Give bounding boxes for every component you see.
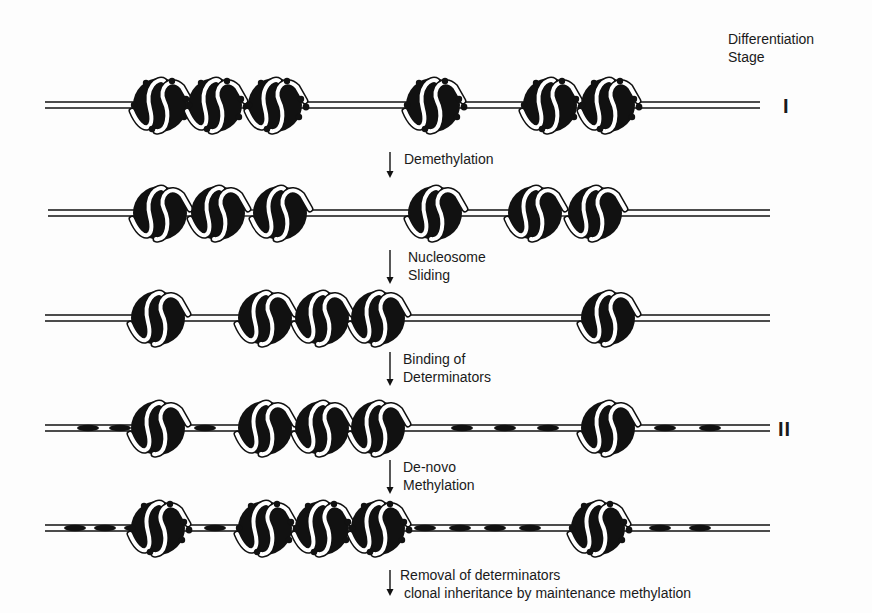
- nucleosome-icon: [404, 78, 468, 132]
- methyl-group-icon: [559, 78, 565, 84]
- methyl-group-icon: [131, 102, 137, 108]
- methyl-group-icon: [399, 537, 405, 543]
- nucleosome-icon: [246, 78, 310, 132]
- methyl-group-icon: [303, 104, 310, 111]
- nucleosome-icon: [579, 78, 643, 132]
- methyl-group-icon: [591, 80, 597, 86]
- methyl-group-icon: [149, 126, 155, 132]
- methyl-group-icon: [442, 78, 448, 84]
- methyl-group-icon: [246, 102, 252, 108]
- nucleosome-icon: [569, 501, 633, 555]
- step-arrow-icon: [387, 152, 394, 178]
- chromatin-differentiation-diagram: Differentiation Stage I II Demethylation…: [0, 0, 872, 613]
- methyl-group-icon: [581, 503, 587, 509]
- methyl-group-icon: [416, 80, 422, 86]
- nucleosome-icon: [350, 291, 408, 345]
- methyl-group-icon: [258, 80, 264, 86]
- methyl-group-icon: [617, 78, 623, 84]
- nucleosome-icon: [294, 291, 352, 345]
- stage-column-title: Differentiation Stage: [728, 30, 814, 66]
- methyl-group-icon: [361, 503, 367, 509]
- step-label-binding-of-determinators: Binding of Determinators: [403, 350, 491, 386]
- step-label-removal-of-determinators: Removal of determinators clonal inherita…: [400, 566, 691, 602]
- stage-marker-i: I: [783, 95, 790, 118]
- nucleosome-icon: [521, 78, 585, 132]
- methyl-group-icon: [274, 501, 280, 507]
- determinator-icon: [654, 425, 676, 431]
- nucleosome-icon: [293, 501, 357, 555]
- methyl-group-icon: [533, 80, 539, 86]
- methyl-group-icon: [141, 503, 147, 509]
- methyl-group-icon: [626, 527, 633, 534]
- step-arrow-icon: [387, 250, 394, 284]
- determinator-icon: [484, 525, 506, 531]
- methyl-group-icon: [204, 126, 210, 132]
- methyl-group-icon: [296, 114, 302, 120]
- determinator-icon: [64, 525, 86, 531]
- methyl-group-icon: [621, 519, 627, 525]
- methyl-group-icon: [236, 114, 242, 120]
- methyl-group-icon: [569, 525, 575, 531]
- step-label-nucleosome-sliding: Nucleosome Sliding: [408, 248, 486, 284]
- methyl-group-icon: [454, 114, 460, 120]
- determinator-icon: [77, 425, 99, 431]
- stage-title-line1: Differentiation: [728, 30, 814, 48]
- nucleosome-icon: [407, 186, 465, 240]
- determinator-icon: [649, 525, 671, 531]
- nucleosome-icon: [130, 291, 188, 345]
- methyl-group-icon: [406, 527, 413, 534]
- methyl-group-icon: [183, 96, 189, 102]
- methyl-group-icon: [186, 102, 192, 108]
- nucleosome-icon: [580, 401, 638, 455]
- methyl-group-icon: [224, 78, 230, 84]
- determinator-icon: [194, 425, 216, 431]
- methyl-group-icon: [143, 80, 149, 86]
- methyl-group-icon: [169, 78, 175, 84]
- step-label-demethylation: Demethylation: [404, 150, 494, 168]
- methyl-group-icon: [387, 501, 393, 507]
- methyl-group-icon: [236, 525, 242, 531]
- nucleosome-icon: [186, 78, 250, 132]
- chromatin-strands-svg: [0, 0, 872, 613]
- methyl-group-icon: [401, 519, 407, 525]
- nucleosome-icon: [350, 401, 408, 455]
- methyl-group-icon: [288, 519, 294, 525]
- methyl-group-icon: [293, 525, 299, 531]
- determinator-icon: [494, 425, 516, 431]
- determinator-icon: [689, 525, 711, 531]
- nucleosome-icon: [130, 401, 188, 455]
- step-label-de-novo-methylation: De-novo Methylation: [403, 458, 475, 494]
- methyl-group-icon: [539, 126, 545, 132]
- methyl-group-icon: [456, 96, 462, 102]
- methyl-group-icon: [404, 102, 410, 108]
- nucleosome-icon: [507, 186, 565, 240]
- methyl-group-icon: [331, 501, 337, 507]
- methyl-group-icon: [597, 126, 603, 132]
- methyl-group-icon: [286, 537, 292, 543]
- methyl-group-icon: [587, 549, 593, 555]
- nucleosome-icon: [294, 401, 352, 455]
- nucleosome-icon: [580, 291, 638, 345]
- methyl-group-icon: [573, 96, 579, 102]
- nucleosome-icon: [567, 186, 625, 240]
- determinator-icon: [204, 525, 226, 531]
- determinator-icon: [414, 525, 436, 531]
- methyl-group-icon: [422, 126, 428, 132]
- step-arrow-icon: [387, 570, 394, 596]
- determinator-icon: [94, 525, 116, 531]
- determinator-icon: [699, 425, 721, 431]
- nucleosome-icon: [237, 401, 295, 455]
- methyl-group-icon: [284, 78, 290, 84]
- methyl-group-icon: [186, 527, 193, 534]
- methyl-group-icon: [167, 501, 173, 507]
- methyl-group-icon: [198, 80, 204, 86]
- determinator-icon: [451, 425, 473, 431]
- chromatin-row: [45, 401, 770, 455]
- methyl-group-icon: [629, 114, 635, 120]
- methyl-group-icon: [619, 537, 625, 543]
- methyl-group-icon: [129, 525, 135, 531]
- methyl-group-icon: [181, 519, 187, 525]
- nucleosome-icon: [129, 501, 193, 555]
- chromatin-row: [48, 186, 770, 240]
- chromatin-row: [45, 78, 760, 132]
